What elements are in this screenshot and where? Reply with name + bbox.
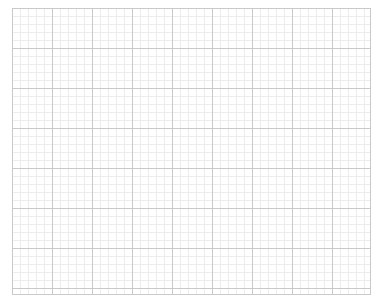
graph-paper-grid [12, 8, 371, 295]
